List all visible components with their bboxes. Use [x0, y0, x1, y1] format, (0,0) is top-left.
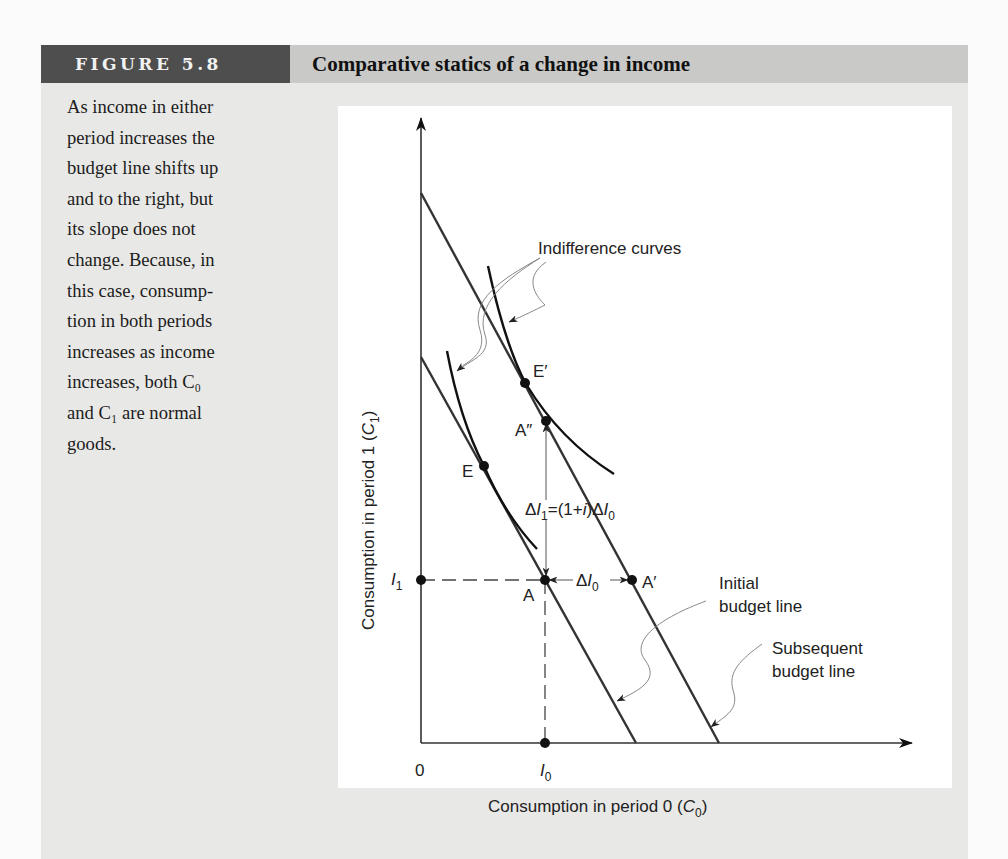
label-Eprime: E′ [533, 362, 548, 381]
label-A: A [523, 586, 535, 605]
initial-budget-line [421, 357, 636, 743]
subsequent-budget-label-1: Subsequent [772, 639, 863, 658]
subsequent-budget-label-2: budget line [772, 662, 855, 681]
label-Aprime: A′ [642, 573, 657, 592]
point-A [540, 575, 550, 585]
subsequent-budget-leader [711, 644, 762, 727]
point-I1 [416, 575, 426, 585]
point-Adprime [541, 416, 551, 426]
label-E: E [462, 462, 473, 481]
i0-tick-label: I0 [540, 761, 552, 784]
point-Aprime [627, 575, 637, 585]
indifference-curves-label: Indifference curves [538, 239, 681, 258]
y-axis-label: Consumption in period 1 (C1) [359, 411, 382, 630]
diagram-svg: Indifference curves E′ A″ E A A′ ΔI1=(1+… [0, 0, 1008, 859]
i1-tick-label: I1 [391, 570, 403, 593]
label-Adprime: A″ [515, 421, 532, 440]
origin-label: 0 [415, 761, 424, 780]
indifference-curve-subsequent [488, 266, 614, 474]
point-Eprime [520, 378, 530, 388]
initial-budget-label-1: Initial [719, 574, 759, 593]
point-E [479, 461, 489, 471]
delta-i0-label: ΔI0 [576, 571, 599, 594]
x-axis-label: Consumption in period 0 (C0) [488, 797, 707, 820]
indiff-leader [509, 262, 546, 322]
indiff-leader [457, 258, 540, 371]
initial-budget-label-2: budget line [719, 597, 802, 616]
point-I0 [540, 738, 550, 748]
initial-budget-leader [617, 601, 706, 701]
delta-i1-label: ΔI1=(1+i)ΔI0 [525, 500, 615, 523]
